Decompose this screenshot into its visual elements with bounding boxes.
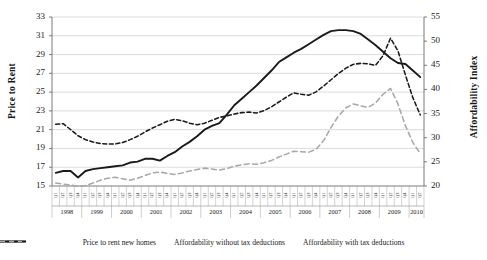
plot-area	[0, 0, 487, 260]
legend-swatch	[0, 238, 22, 245]
legend-label: Affordability without tax deductions	[174, 238, 285, 247]
legend-label: Affordability with tax deductions	[303, 238, 404, 247]
price-to-rent-affordability-chart: Price to Rent Affordability Index 151719…	[0, 0, 487, 260]
legend-item: Affordability without tax deductions	[174, 238, 285, 247]
series-line-0	[56, 30, 421, 177]
chart-legend: Price to rent new homesAffordability wit…	[0, 238, 487, 247]
legend-item: Price to rent new homes	[83, 238, 156, 247]
legend-label: Price to rent new homes	[83, 238, 156, 247]
series-line-1	[56, 38, 421, 144]
legend-item: Affordability with tax deductions	[303, 238, 404, 247]
